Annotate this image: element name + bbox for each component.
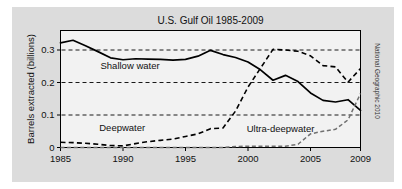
ytick-label-0: 0 — [49, 142, 54, 153]
xtick-label-3: 2000 — [237, 153, 258, 164]
credit-label: National Geographic 2010 — [373, 43, 381, 119]
xtick-label-1: 1990 — [112, 153, 133, 164]
ytick-label-2: 0.2 — [41, 77, 54, 88]
ytick-label-3: 0.3 — [41, 44, 54, 55]
series-label-ultra-deepwater: Ultra-deepwater — [247, 123, 315, 134]
series-label-deepwater: Deepwater — [99, 122, 145, 133]
chart-title: U.S. Gulf Oil 1985-2009 — [157, 15, 264, 26]
xtick-label-4: 2005 — [300, 153, 321, 164]
figure-container: 00.10.20.3198519901995200020052009Barrel… — [0, 0, 402, 189]
ytick-label-1: 0.1 — [41, 109, 54, 120]
xtick-label-2: 1995 — [175, 153, 196, 164]
line-chart: 00.10.20.3198519901995200020052009Barrel… — [0, 0, 402, 189]
y-axis-label: Barrels extracted (billions) — [25, 34, 36, 144]
series-label-shallow-water: Shallow water — [101, 60, 160, 71]
xtick-label-5: 2009 — [350, 153, 371, 164]
xtick-label-0: 1985 — [50, 153, 71, 164]
